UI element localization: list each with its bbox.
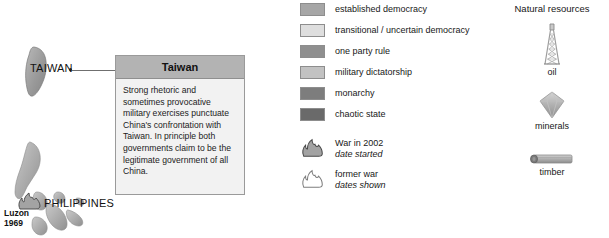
war-label-group: former war dates shown [335,169,386,190]
legend: established democracy transitional / unc… [300,0,495,238]
war-label-group: War in 2002 date started [335,138,383,159]
legend-item-former-war: former war dates shown [300,169,386,190]
legend-item-one-party-rule: one party rule [300,44,390,58]
resource-caption: oil [495,67,609,77]
resource-item-oil: oil [495,22,609,77]
legend-item-transitional-democracy: transitional / uncertain democracy [300,23,470,37]
luzon-name: Luzon [4,208,29,218]
resource-item-minerals: minerals [495,90,609,131]
map-label-taiwan: TAIWAN [30,62,73,74]
legend-label: chaotic state [335,109,386,119]
map-annotation-luzon: Luzon 1969 [4,209,29,228]
resource-glyph [495,90,609,120]
flame-solid-icon [300,138,326,158]
luzon-year: 1969 [4,218,23,228]
callout-box: Taiwan Strong rhetoric and sometimes pro… [115,55,245,195]
legend-label: monarchy [335,88,375,98]
legend-swatch [300,3,325,16]
legend-swatch [300,24,325,37]
legend-item-established-democracy: established democracy [300,2,427,16]
legend-item-chaotic-state: chaotic state [300,107,386,121]
oil-derrick-icon [541,22,563,66]
war-label: War in 2002 [335,138,383,148]
legend-swatch [300,66,325,79]
gem-icon [537,90,567,120]
legend-item-military-dictatorship: military dictatorship [300,65,412,79]
legend-label: transitional / uncertain democracy [335,25,470,35]
log-icon [529,152,575,166]
resource-item-timber: timber [495,152,609,177]
war-sublabel: dates shown [335,180,386,191]
callout-body-text: Strong rhetoric and sometimes provocativ… [116,79,244,182]
resource-glyph [495,22,609,66]
callout-title: Taiwan [116,56,244,79]
legend-label: one party rule [335,46,390,56]
leader-line [72,70,116,71]
legend-item-monarchy: monarchy [300,86,375,100]
legend-item-war-2002: War in 2002 date started [300,138,383,159]
resource-caption: timber [495,167,609,177]
war-label: former war [335,169,378,179]
legend-swatch [300,45,325,58]
flame-outline-icon [300,169,326,189]
map-legend-panel: TAIWAN PHILIPPINES Luzon 1969 Taiwan Str… [0,0,609,238]
legend-label: military dictatorship [335,67,412,77]
legend-swatch [300,108,325,121]
resource-caption: minerals [495,121,609,131]
legend-label: established democracy [335,4,427,14]
natural-resources-legend: Natural resources oil [495,0,609,238]
legend-swatch [300,87,325,100]
resource-glyph [495,152,609,166]
map-label-philippines: PHILIPPINES [44,197,114,209]
war-sublabel: date started [335,149,383,160]
natural-resources-title: Natural resources [495,3,609,14]
